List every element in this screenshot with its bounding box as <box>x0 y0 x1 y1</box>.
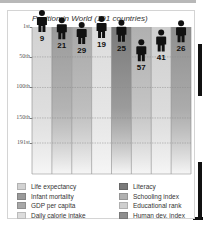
legend-label: Schooling index <box>133 193 179 200</box>
legend-swatch <box>119 202 128 209</box>
column-educational-rank <box>151 27 171 174</box>
value-label: 57 <box>137 63 146 72</box>
legend-label: Infant mortality <box>31 193 74 200</box>
value-label: 19 <box>97 40 106 49</box>
value-label: 26 <box>177 44 186 53</box>
legend-label: Educational rank <box>133 202 181 209</box>
legend-item: Schooling index <box>119 193 179 200</box>
legend-item: Daily calorie intake <box>17 212 86 219</box>
legend-label: Daily calorie intake <box>31 212 86 219</box>
legend-item: Life expectancy <box>17 183 76 190</box>
legend-swatch <box>17 212 26 219</box>
legend-item: Educational rank <box>119 202 181 209</box>
legend-label: GDP per capita <box>31 202 75 209</box>
legend-label: Life expectancy <box>31 183 76 190</box>
legend-swatch <box>119 193 128 200</box>
legend-item: Human dev. index <box>119 212 185 219</box>
legend-item: Literacy <box>119 183 156 190</box>
legend-swatch <box>17 202 26 209</box>
value-label: 25 <box>117 44 126 53</box>
legend-swatch <box>17 183 26 190</box>
value-label: 21 <box>57 41 66 50</box>
column-life-expectancy <box>32 27 52 174</box>
column-daily-calorie-intake <box>92 27 112 174</box>
value-label: 29 <box>77 46 86 55</box>
legend-swatch <box>119 212 128 219</box>
legend-item: Infant mortality <box>17 193 74 200</box>
value-label: 41 <box>157 53 166 62</box>
plot-area: 921291925574126 <box>0 0 205 225</box>
legend-swatch <box>119 183 128 190</box>
legend-label: Human dev. index <box>133 212 185 219</box>
value-label: 9 <box>40 34 45 43</box>
legend-label: Literacy <box>133 183 156 190</box>
legend-swatch <box>17 193 26 200</box>
legend-item: GDP per capita <box>17 202 75 209</box>
